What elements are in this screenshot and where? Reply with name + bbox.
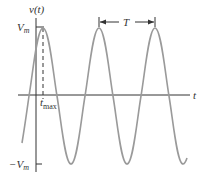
neg-vm-label: −Vm xyxy=(9,158,29,172)
tmax-label-sub: max xyxy=(43,102,57,111)
arrowhead-left-icon xyxy=(100,20,106,25)
y-axis-label: v(t) xyxy=(29,3,45,16)
vm-label-sub: m xyxy=(24,26,30,35)
period-label: T xyxy=(123,16,130,28)
neg-vm-label-main: −V xyxy=(9,158,24,170)
neg-vm-label-sub: m xyxy=(23,163,29,172)
sinusoid-diagram: v(t) t Vm −Vm tmax T xyxy=(0,0,209,187)
x-axis-label: t xyxy=(193,89,197,101)
tmax-label: tmax xyxy=(40,96,57,111)
sinusoid-curve xyxy=(22,28,187,164)
vm-label: Vm xyxy=(17,21,30,35)
arrowhead-right-icon xyxy=(148,20,154,25)
